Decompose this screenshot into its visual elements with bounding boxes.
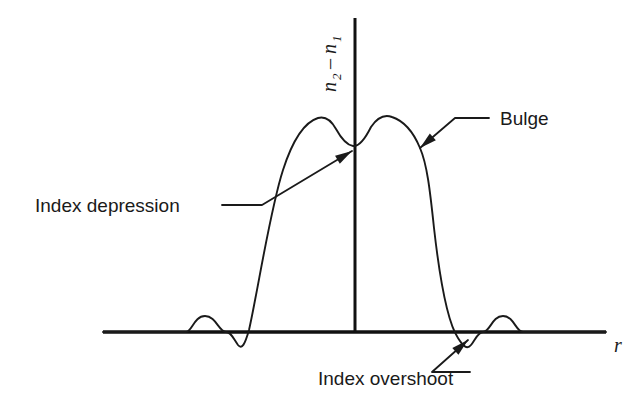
index-depression-arrowhead	[335, 151, 352, 164]
y-axis-label-minus-sign: –	[318, 58, 340, 70]
y-axis-label-n1-symbol: n	[318, 44, 340, 54]
bulge-leader-line	[420, 118, 489, 148]
y-axis-label-group: n 2 – n 1	[318, 36, 344, 93]
annotation-bulge: Bulge	[420, 108, 549, 148]
y-axis-label-n2-subscript: 2	[329, 73, 344, 80]
index-depression-label: Index depression	[35, 195, 180, 216]
figure-container: r n 2 – n 1 Index depression Bulge Index…	[0, 0, 643, 407]
y-axis-label-n1-subscript: 1	[329, 36, 344, 43]
index-profile-figure: r n 2 – n 1 Index depression Bulge Index…	[0, 0, 643, 407]
x-axis-label: r	[614, 334, 622, 356]
annotation-index-depression: Index depression	[35, 151, 352, 216]
y-axis-label-n2-symbol: n	[318, 82, 340, 92]
index-overshoot-label: Index overshoot	[318, 368, 454, 389]
bulge-label: Bulge	[500, 108, 549, 129]
annotation-index-overshoot: Index overshoot	[318, 340, 470, 389]
